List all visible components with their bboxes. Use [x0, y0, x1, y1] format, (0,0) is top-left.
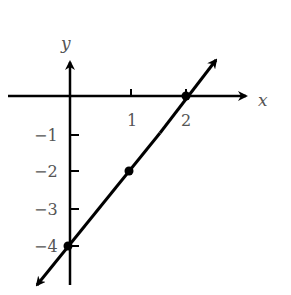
y-tick-label-m1: −1: [34, 126, 58, 145]
x-tick-label-2: 2: [181, 111, 191, 130]
y-tick-label-m4: −4: [34, 237, 58, 256]
x-tick-label-1: 1: [127, 111, 137, 130]
point-1-m2: [125, 167, 134, 176]
point-0-m4: [64, 242, 73, 251]
y-tick-label-m3: −3: [34, 200, 58, 219]
coordinate-plane: y x 1 2 −1 −2 −3 −4: [0, 0, 291, 295]
y-tick-label-m2: −2: [34, 162, 58, 181]
point-2-0: [182, 92, 191, 101]
x-axis: [8, 89, 246, 96]
x-axis-label: x: [258, 90, 268, 110]
y-axis-label: y: [60, 33, 71, 53]
line-series: [37, 60, 216, 285]
